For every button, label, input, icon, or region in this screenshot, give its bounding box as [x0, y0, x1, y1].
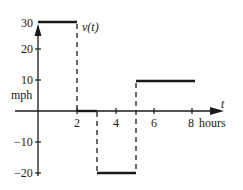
x-tick-label-4: 4: [113, 116, 119, 130]
y-tick-label-30: 30: [21, 16, 33, 30]
y-axis-arrow-icon: [35, 24, 42, 36]
x-tick-label-8: 8: [188, 116, 194, 130]
x-axis-variable-label: t: [221, 97, 225, 111]
axes: [15, 26, 218, 176]
y-tick-label-neg20: −20: [14, 166, 33, 180]
velocity-chart: 30 20 10 mph −10 −20 2 4 6 8 hours t v(t…: [0, 0, 243, 190]
y-unit-label: mph: [11, 88, 32, 102]
y-tick-label-10: 10: [21, 73, 33, 87]
velocity-segments: [38, 22, 195, 173]
jump-lines: [77, 24, 136, 172]
x-unit-label: hours: [199, 116, 226, 130]
y-tick-label-20: 20: [21, 42, 33, 56]
x-tick-label-6: 6: [151, 116, 157, 130]
y-tick-label-neg10: −10: [14, 135, 33, 149]
x-tick-label-2: 2: [74, 116, 80, 130]
curve-label: v(t): [82, 20, 99, 34]
